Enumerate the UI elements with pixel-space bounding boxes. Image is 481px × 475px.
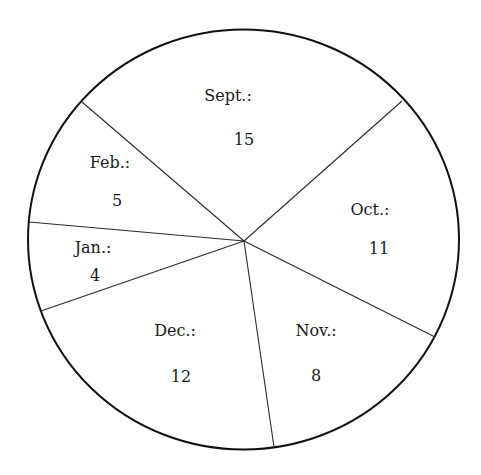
slice-label: Oct.: [351,200,390,219]
pie-chart: Sept.: 15 Oct.: 11 Nov.: 8 Dec.: 12 Jan.… [0,0,481,475]
slice-value: 8 [311,366,321,385]
slice-dec: Dec.: 12 [154,321,196,386]
slice-label: Feb.: [90,153,130,172]
slice-value: 15 [234,130,254,149]
slice-value: 12 [171,367,191,386]
slice-label: Sept.: [204,86,252,105]
slice-label: Jan.: [73,238,112,257]
divider-nov-dec [244,241,274,447]
slice-sept: Sept.: 15 [204,86,254,149]
slice-value: 5 [112,191,122,210]
divider-oct-nov [244,241,435,337]
slice-jan: Jan.: 4 [73,238,112,285]
slice-oct: Oct.: 11 [351,200,390,258]
slice-label: Nov.: [295,321,336,340]
divider-dec-jan [41,241,244,311]
divider-jan-feb [29,222,244,241]
slice-label: Dec.: [154,321,196,340]
slice-feb: Feb.: 5 [90,153,130,210]
slice-nov: Nov.: 8 [295,321,336,385]
slice-value: 11 [369,239,389,258]
divider-sept-oct [244,101,402,241]
slice-value: 4 [90,266,100,285]
